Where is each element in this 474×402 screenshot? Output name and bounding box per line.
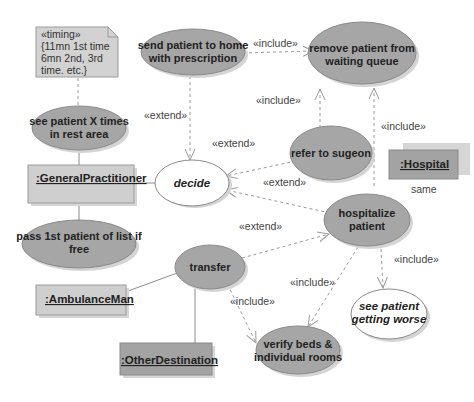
stereotype-include: «include»: [256, 94, 301, 106]
use-case-label: waiting queue: [324, 55, 398, 67]
use-case-label: decide: [174, 177, 211, 189]
use-case-send-home[interactable]: send patient to home with prescription: [138, 29, 249, 78]
note-line: {11mn 1st time: [41, 40, 110, 52]
assoc-ambulance-transfer: [128, 272, 180, 291]
use-case-label: with prescription: [148, 52, 238, 64]
include-send-home-remove: [243, 51, 314, 53]
note-line: time. etc.}: [41, 64, 88, 76]
actor-label: :GeneralPractitioner: [36, 172, 147, 184]
use-case-label: getting worse: [351, 313, 427, 325]
use-case-getting-worse[interactable]: see patient getting worse: [351, 289, 430, 342]
use-case-label: patient: [349, 220, 385, 232]
actor-label: :AmbulanceMan: [45, 293, 134, 305]
use-case-label: remove patient from: [309, 42, 415, 54]
actor-label: :Hospital: [400, 158, 449, 170]
use-case-label: individual rooms: [254, 351, 342, 363]
use-case-verify-beds[interactable]: verify beds & individual rooms: [254, 326, 343, 377]
stereotype-include: «include»: [253, 37, 298, 49]
actor-other-destination[interactable]: :OtherDestination: [120, 343, 218, 378]
actor-label: :OtherDestination: [121, 354, 218, 366]
use-case-label: in rest area: [50, 128, 110, 140]
actor-ambulance-man[interactable]: :AmbulanceMan: [36, 285, 134, 318]
timing-note: «timing» {11mn 1st time 6mn 2nd, 3rd tim…: [36, 27, 118, 77]
extend-hospitalize-decide: [226, 190, 330, 213]
stereotype-include: «include»: [230, 295, 275, 307]
use-case-remove-patient[interactable]: remove patient from waiting queue: [308, 22, 419, 87]
include-hospitalize-worse: [381, 249, 383, 288]
use-case-label: transfer: [190, 261, 232, 273]
use-case-label: hospitalize: [339, 207, 396, 219]
use-case-decide[interactable]: decide: [155, 160, 232, 208]
use-case-label: pass 1st patient of list if: [16, 230, 142, 242]
use-case-label: free: [69, 243, 89, 255]
use-case-label: refer to sugeon: [291, 147, 371, 159]
actor-hospital[interactable]: :Hospital: [389, 143, 470, 179]
stereotype-extend: «extend»: [239, 220, 282, 232]
use-case-label: send patient to home: [138, 39, 249, 51]
use-case-hospitalize[interactable]: hospitalize patient: [324, 194, 413, 249]
extend-refer-decide: [226, 161, 296, 176]
use-case-diagram: «timing» {11mn 1st time 6mn 2nd, 3rd tim…: [0, 0, 474, 402]
stereotype-extend: «extend»: [212, 137, 255, 149]
use-case-pass-first[interactable]: pass 1st patient of list if free: [16, 220, 142, 271]
stereotype-extend: «extend»: [144, 109, 187, 121]
note-line: «timing»: [41, 28, 81, 40]
use-case-label: verify beds &: [263, 338, 332, 350]
use-case-see-patient[interactable]: see patient X times in rest area: [29, 106, 129, 153]
stereotype-include: «include»: [290, 276, 335, 288]
stereotype-include: «include»: [381, 120, 426, 132]
use-case-label: see patient: [359, 300, 420, 312]
stereotype-extend: «extend»: [263, 176, 306, 188]
note-line: 6mn 2nd, 3rd: [41, 52, 103, 64]
stereotype-include: «include»: [394, 253, 439, 265]
actor-general-practitioner[interactable]: :GeneralPractitioner: [28, 165, 147, 206]
use-case-refer-surgeon[interactable]: refer to sugeon: [290, 126, 375, 183]
association-label-same: same: [411, 183, 437, 195]
extend-transfer-hospitalize: [242, 234, 329, 258]
use-case-transfer[interactable]: transfer: [175, 245, 248, 292]
use-case-label: see patient X times: [29, 115, 129, 127]
